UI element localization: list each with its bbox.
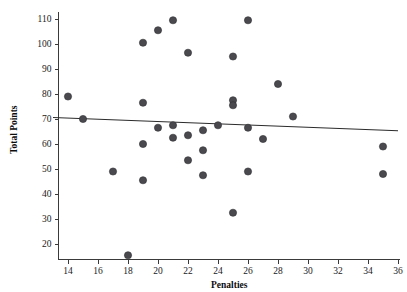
y-tick-label: 60 (42, 139, 52, 149)
x-tick-label: 16 (93, 266, 103, 276)
data-point (379, 143, 386, 150)
x-tick-label: 18 (123, 266, 133, 276)
data-point (229, 209, 236, 216)
data-point (184, 132, 191, 139)
x-axis-title: Penalties (211, 280, 248, 290)
data-point (124, 252, 131, 259)
y-tick-label: 100 (37, 39, 52, 49)
y-tick-label: 40 (42, 189, 52, 199)
data-point (154, 27, 161, 34)
y-tick-label: 20 (42, 239, 52, 249)
data-point (169, 134, 176, 141)
x-tick-label: 36 (393, 266, 403, 276)
data-point (139, 99, 146, 106)
data-point (169, 122, 176, 129)
regression-line (53, 118, 398, 131)
data-point (229, 53, 236, 60)
data-points (64, 17, 386, 259)
data-point (199, 147, 206, 154)
y-tick-label: 70 (42, 114, 52, 124)
x-tick-label: 28 (273, 266, 283, 276)
y-tick-label: 110 (38, 14, 52, 24)
x-tick-label: 34 (363, 266, 373, 276)
data-point (64, 93, 71, 100)
data-point (244, 124, 251, 131)
data-point (244, 168, 251, 175)
data-point (229, 102, 236, 109)
data-point (199, 127, 206, 134)
x-tick-label: 20 (153, 266, 163, 276)
scatter-plot-figure: 2030405060708090100110 14161820222426283… (0, 0, 407, 292)
y-tick-label: 90 (42, 64, 52, 74)
y-tick-label: 80 (42, 89, 52, 99)
data-point (139, 177, 146, 184)
data-point (244, 17, 251, 24)
data-point (214, 122, 221, 129)
x-tick-label: 22 (183, 266, 193, 276)
data-point (289, 113, 296, 120)
data-point (379, 170, 386, 177)
data-point (109, 168, 116, 175)
y-axis-title: Total Points (9, 105, 19, 154)
y-axis: 2030405060708090100110 (37, 12, 58, 260)
x-tick-label: 14 (63, 266, 73, 276)
data-point (199, 172, 206, 179)
data-point (259, 135, 266, 142)
plot-canvas: 2030405060708090100110 14161820222426283… (0, 0, 407, 292)
data-point (274, 80, 281, 87)
y-tick-label: 30 (42, 214, 52, 224)
x-tick-label: 32 (333, 266, 343, 276)
x-tick-label: 30 (303, 266, 313, 276)
data-point (139, 140, 146, 147)
x-tick-label: 24 (213, 266, 223, 276)
y-tick-label: 50 (42, 164, 52, 174)
data-point (184, 157, 191, 164)
data-point (79, 115, 86, 122)
x-tick-label: 26 (243, 266, 253, 276)
data-point (154, 124, 161, 131)
data-point (169, 17, 176, 24)
data-point (139, 39, 146, 46)
data-point (184, 49, 191, 56)
x-axis: 141618202224262830323436 (59, 260, 404, 277)
trend-line (53, 118, 398, 131)
